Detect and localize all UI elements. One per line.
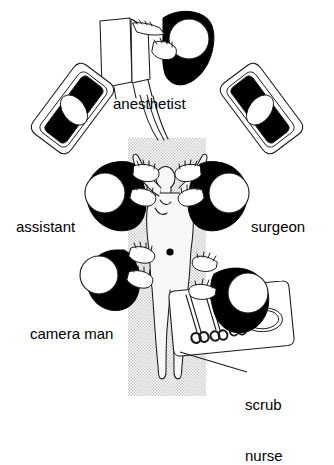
label-scrub-nurse-line2: nurse — [245, 447, 283, 464]
anesthesia-machine — [100, 18, 168, 140]
video-monitor-right — [220, 63, 302, 153]
label-scrub-nurse-line1: scrub — [245, 396, 283, 413]
umbilical-port-dot — [166, 248, 173, 255]
label-camera-man: camera man — [30, 326, 113, 342]
label-anesthetist: anesthetist — [113, 96, 186, 112]
label-assistant: assistant — [16, 219, 75, 235]
label-surgeon: surgeon — [251, 219, 305, 235]
video-monitor-left — [31, 63, 113, 153]
label-scrub-nurse: scrub nurse — [245, 362, 283, 465]
